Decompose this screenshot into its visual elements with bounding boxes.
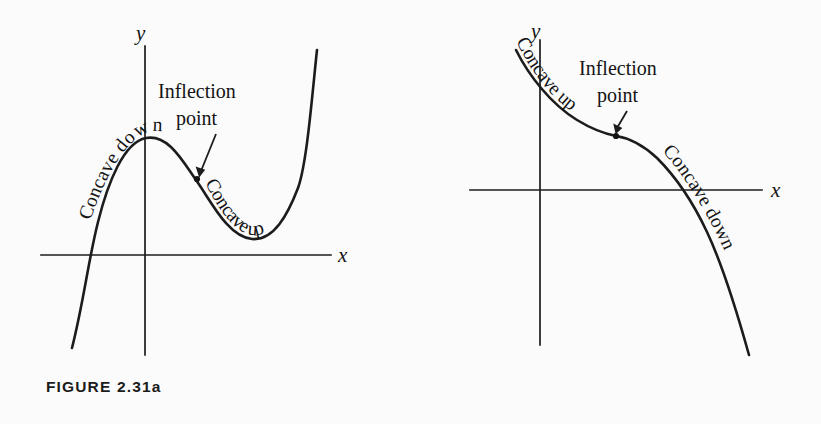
concave-down-label-text: Concave down	[659, 140, 740, 253]
inflection-callout-line1: Inflection	[579, 57, 657, 79]
figure-b-graphic: x y Inflection point Concave up Concave …	[411, 0, 821, 380]
concave-up-label-text: Concave up	[202, 175, 266, 240]
inflection-callout-leader	[201, 134, 216, 171]
concave-up-label-text: Concave up	[513, 33, 582, 114]
x-axis-label: x	[337, 243, 348, 267]
concave-up-label: Concave up	[513, 33, 582, 114]
inflection-callout-leader	[617, 111, 627, 128]
figure-a-graphic: x y Inflection point Concave down Concav…	[0, 0, 410, 380]
figure-board: x y Inflection point Concave down Concav…	[0, 0, 821, 424]
y-axis-label: y	[134, 21, 146, 45]
figure-panel-b: x y Inflection point Concave up Concave …	[411, 0, 821, 424]
inflection-point-dot	[613, 133, 619, 139]
figure-a-caption: FIGURE 2.31a	[46, 378, 161, 396]
concave-up-label: Concave up	[202, 175, 266, 240]
inflection-callout-line2: point	[597, 84, 639, 107]
figure-panel-a: x y Inflection point Concave down Concav…	[0, 0, 410, 424]
concave-down-label: Concave down	[659, 140, 740, 253]
x-axis-label: x	[770, 178, 781, 202]
inflection-callout-line1: Inflection	[158, 80, 236, 102]
inflection-callout-line2: point	[176, 107, 218, 130]
concave-down-label-text: Concave down	[74, 114, 163, 222]
concave-down-label: Concave down	[74, 114, 163, 222]
